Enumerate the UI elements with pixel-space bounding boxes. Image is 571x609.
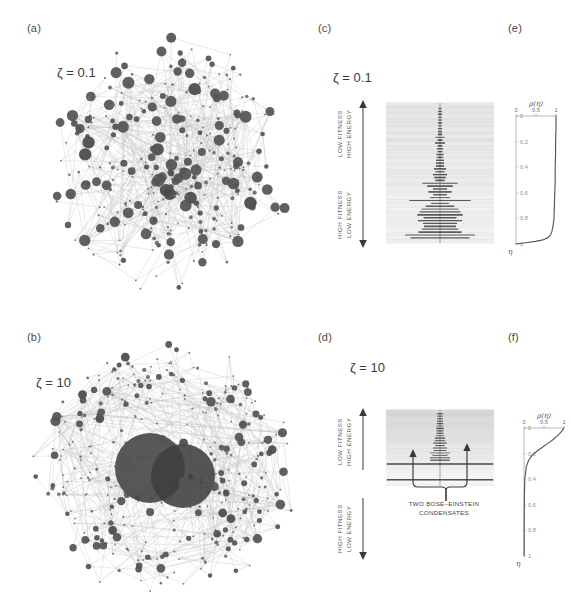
svg-text:0.5: 0.5 bbox=[532, 107, 540, 113]
svg-text:0.4: 0.4 bbox=[528, 476, 536, 482]
panel-f-distribution-chart: 00.51ρ(η)00.20.40.60.81η bbox=[508, 408, 571, 576]
svg-text:0.2: 0.2 bbox=[520, 139, 528, 145]
panel-label-a: (a) bbox=[27, 22, 41, 34]
panel-label-b: (b) bbox=[27, 331, 41, 343]
svg-text:0.8: 0.8 bbox=[520, 215, 528, 221]
panel-e-distribution-chart: 00.51ρ(η)00.20.40.60.81η bbox=[500, 96, 566, 264]
panel-c-low-fitness-label: LOW FITNESS bbox=[336, 104, 344, 164]
svg-text:0.5: 0.5 bbox=[540, 419, 548, 425]
panel-c-energy-axis-arrow bbox=[356, 100, 370, 248]
svg-text:0: 0 bbox=[522, 419, 525, 425]
svg-text:1: 1 bbox=[554, 107, 557, 113]
svg-text:η: η bbox=[508, 247, 513, 256]
panel-d-low-fitness-label: LOW FITNESS bbox=[336, 412, 344, 472]
panel-label-d: (d) bbox=[318, 331, 332, 343]
panel-d-high-energy-arrow bbox=[356, 408, 370, 470]
panel-d-condensate-annotation: TWO BOSE–EINSTEIN CONDENSATES bbox=[385, 500, 503, 517]
svg-text:0.6: 0.6 bbox=[520, 190, 528, 196]
svg-text:η: η bbox=[516, 559, 521, 568]
panel-label-c: (c) bbox=[318, 22, 331, 34]
svg-text:0: 0 bbox=[520, 113, 523, 119]
panel-label-f: (f) bbox=[508, 331, 519, 343]
panel-d-parameter-label: ζ = 10 bbox=[350, 360, 385, 375]
panel-d-low-energy-arrow bbox=[356, 498, 370, 560]
svg-text:0: 0 bbox=[514, 107, 517, 113]
condensate-hub-2 bbox=[151, 444, 215, 508]
panel-label-e: (e) bbox=[508, 22, 522, 34]
panel-d-bottom-axis-caption: HIGH FITNESS LOW ENERGY bbox=[336, 500, 353, 558]
svg-text:0.8: 0.8 bbox=[528, 527, 536, 533]
network-graph-b bbox=[40, 328, 290, 608]
network-graph-a bbox=[55, 20, 285, 305]
panel-c-energy-spectrum bbox=[384, 100, 496, 245]
svg-text:0.6: 0.6 bbox=[528, 502, 536, 508]
panel-c-parameter-label: ζ = 0.1 bbox=[333, 70, 372, 85]
panel-c-bottom-axis-caption: HIGH FITNESS LOW ENERGY bbox=[336, 186, 353, 244]
panel-d-low-energy-label: LOW ENERGY bbox=[345, 500, 353, 558]
svg-text:0: 0 bbox=[528, 425, 531, 431]
svg-text:0.4: 0.4 bbox=[520, 164, 528, 170]
svg-text:ρ(η): ρ(η) bbox=[536, 412, 551, 420]
panel-d-condensate-pointers bbox=[384, 443, 504, 505]
panel-d-high-fitness-label: HIGH FITNESS bbox=[336, 500, 344, 558]
annotation-line-1: TWO BOSE–EINSTEIN bbox=[385, 500, 503, 509]
svg-text:1: 1 bbox=[528, 553, 531, 559]
annotation-line-2: CONDENSATES bbox=[385, 509, 503, 518]
panel-c-high-energy-label: HIGH ENERGY bbox=[345, 104, 353, 164]
panel-d-high-energy-label: HIGH ENERGY bbox=[345, 412, 353, 472]
panel-d-top-axis-caption: LOW FITNESS HIGH ENERGY bbox=[336, 412, 353, 472]
panel-c-high-fitness-label: HIGH FITNESS bbox=[336, 186, 344, 244]
svg-text:ρ(η): ρ(η) bbox=[528, 100, 543, 108]
svg-text:1: 1 bbox=[562, 419, 565, 425]
panel-c-low-energy-label: LOW ENERGY bbox=[345, 186, 353, 244]
panel-c-top-axis-caption: LOW FITNESS HIGH ENERGY bbox=[336, 104, 353, 164]
